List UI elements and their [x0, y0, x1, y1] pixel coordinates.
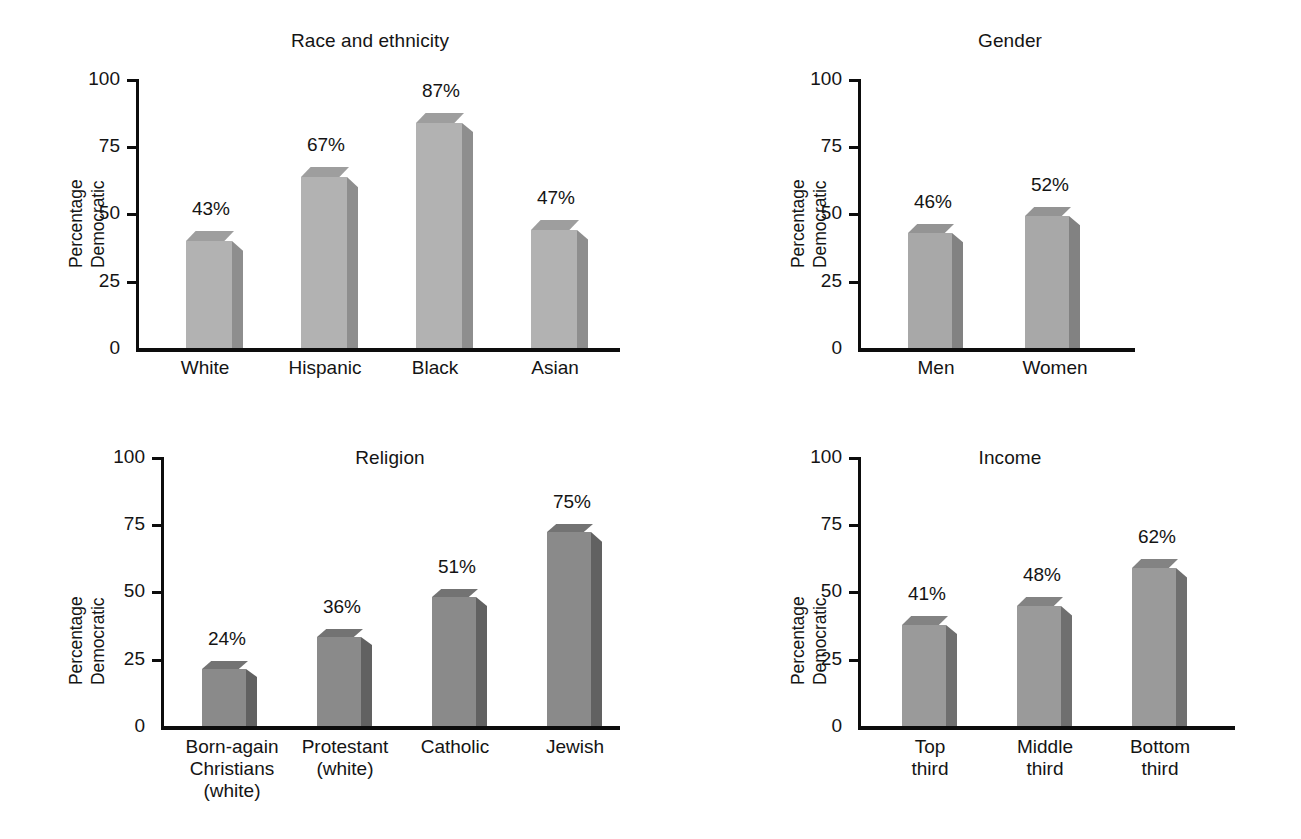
y-tick-label-50-gender: 50 [782, 202, 842, 224]
y-tick-75-race [127, 146, 138, 149]
bar-top-third [902, 616, 958, 726]
bar-value-black: 87% [396, 80, 486, 102]
y-tick-label-50-religion: 50 [85, 580, 145, 602]
bar-protestant-top [317, 629, 363, 637]
bar-value-white: 43% [166, 198, 256, 220]
bar-jewish-front [547, 532, 591, 726]
bar-value-catholic: 51% [412, 556, 502, 578]
bar-middle-third-top [1017, 597, 1063, 606]
x-axis-line-religion [161, 726, 620, 730]
y-tick-50-income [849, 591, 860, 594]
y-tick-label-100-income: 100 [782, 446, 842, 468]
bar-white [186, 231, 244, 348]
bar-black-side [462, 123, 473, 348]
cat-label-black: Black [385, 357, 485, 379]
x-axis-line-gender [858, 348, 1135, 352]
y-tick-25-income [849, 659, 860, 662]
y-tick-label-50-income: 50 [782, 580, 842, 602]
panel-religion: Religion Percentage Democratic 100 75 50… [0, 420, 650, 839]
cat-label-jewish: Jewish [520, 736, 630, 758]
bar-jewish [547, 524, 603, 726]
bar-hispanic [301, 167, 359, 348]
cat-label-men: Men [886, 357, 986, 379]
bar-women-side [1069, 216, 1080, 348]
bar-value-asian: 47% [511, 187, 601, 209]
y-tick-label-100-race: 100 [60, 68, 120, 90]
y-tick-25-gender [849, 281, 860, 284]
bar-bottom-third [1132, 559, 1188, 726]
bar-born-again-christians-side [246, 669, 257, 726]
bar-white-front [186, 241, 232, 348]
bar-catholic-top [432, 589, 478, 597]
bar-bottom-third-top [1132, 559, 1178, 568]
bar-black-top [416, 113, 464, 123]
bar-hispanic-front [301, 177, 347, 348]
bar-catholic [432, 589, 488, 726]
bar-white-side [232, 241, 243, 348]
bar-men-side [952, 233, 963, 348]
bar-protestant-front [317, 637, 361, 726]
y-tick-label-0-income: 0 [782, 715, 842, 737]
bar-asian [531, 220, 589, 348]
bar-white-top [186, 231, 234, 241]
bar-born-again-christians-front [202, 669, 246, 726]
cat-label-women: Women [995, 357, 1115, 379]
bar-asian-side [577, 230, 588, 348]
y-tick-50-gender [849, 213, 860, 216]
y-tick-label-25-religion: 25 [85, 648, 145, 670]
bar-women-top [1025, 207, 1071, 216]
x-axis-line-income [858, 726, 1235, 730]
cat-label-bottom-third: Bottom third [1105, 736, 1215, 780]
cat-label-middle-third: Middle third [990, 736, 1100, 780]
y-tick-50-race [127, 213, 138, 216]
cat-label-asian: Asian [505, 357, 605, 379]
bar-men-top [908, 224, 954, 233]
plot-area-race: 100 75 50 25 0 43% White 67% Hispanic 87… [0, 0, 650, 420]
bar-value-men: 46% [888, 191, 978, 213]
panel-gender: Gender Percentage Democratic 100 75 50 2… [650, 0, 1301, 420]
y-tick-label-25-race: 25 [60, 270, 120, 292]
y-tick-label-0-gender: 0 [782, 337, 842, 359]
x-axis-line-race [136, 348, 620, 352]
bar-black [416, 113, 474, 348]
y-tick-100-income [849, 457, 860, 460]
bar-value-hispanic: 67% [281, 134, 371, 156]
plot-area-religion: 100 75 50 25 0 24% Born-again Christians… [0, 420, 650, 839]
cat-label-white: White [155, 357, 255, 379]
y-tick-50-religion [152, 591, 163, 594]
y-tick-label-0-religion: 0 [85, 715, 145, 737]
cat-label-born-again-christians: Born-again Christians (white) [167, 736, 297, 803]
bar-protestant [317, 629, 373, 726]
bar-men-front [908, 233, 952, 348]
cat-label-catholic: Catholic [400, 736, 510, 758]
bar-middle-third [1017, 597, 1073, 726]
y-tick-100-race [127, 79, 138, 82]
bar-black-front [416, 123, 462, 348]
y-tick-label-75-income: 75 [782, 513, 842, 535]
bar-middle-third-front [1017, 606, 1061, 726]
bar-catholic-side [476, 597, 487, 726]
y-tick-label-100-religion: 100 [85, 446, 145, 468]
y-tick-label-0-race: 0 [60, 337, 120, 359]
cat-label-protestant: Protestant (white) [285, 736, 405, 780]
bar-value-jewish: 75% [527, 491, 617, 513]
bar-women-front [1025, 216, 1069, 348]
bar-born-again-christians [202, 661, 258, 726]
bar-protestant-side [361, 637, 372, 726]
y-tick-25-race [127, 281, 138, 284]
bar-bottom-third-front [1132, 568, 1176, 726]
bar-catholic-front [432, 597, 476, 726]
y-tick-75-gender [849, 146, 860, 149]
bar-top-third-side [946, 625, 957, 726]
bar-bottom-third-side [1176, 568, 1187, 726]
panel-income: Income Percentage Democratic 100 75 50 2… [650, 420, 1301, 839]
bar-top-third-front [902, 625, 946, 726]
cat-label-top-third: Top third [880, 736, 980, 780]
y-tick-100-religion [152, 457, 163, 460]
y-tick-label-25-gender: 25 [782, 270, 842, 292]
y-tick-label-25-income: 25 [782, 648, 842, 670]
bar-asian-front [531, 230, 577, 348]
y-tick-75-religion [152, 524, 163, 527]
y-tick-100-gender [849, 79, 860, 82]
bar-asian-top [531, 220, 579, 230]
